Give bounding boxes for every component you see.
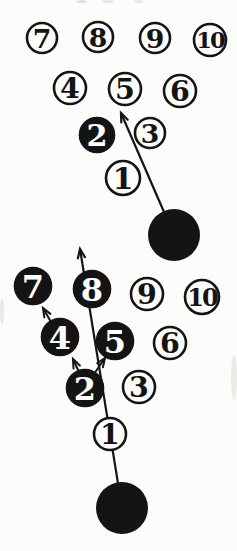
pin-3: 3	[123, 370, 155, 404]
pin-5: 5	[97, 323, 133, 361]
pin-number: 10	[187, 283, 218, 312]
pin-7: 7	[27, 23, 57, 54]
pin-9: 9	[140, 23, 170, 54]
pin-number: 9	[137, 277, 157, 311]
pin-action-figure: 7891045623178910456231	[0, 0, 237, 551]
pin-2: 2	[67, 370, 103, 408]
pin-number: 2	[74, 370, 96, 408]
bowling-ball	[96, 482, 148, 534]
pin-1: 1	[106, 161, 140, 196]
scan-artifact	[0, 298, 4, 324]
pin-number: 10	[196, 27, 225, 53]
pin-7: 7	[15, 268, 51, 306]
pin-number: 6	[170, 74, 190, 108]
pin-number: 6	[160, 326, 180, 360]
scan-artifact	[76, 0, 87, 3]
pin-10: 10	[194, 24, 226, 56]
pin-number: 5	[104, 323, 126, 361]
pin-number: 2	[86, 118, 107, 153]
scan-artifact	[231, 356, 237, 400]
pin-10: 10	[185, 280, 219, 314]
pin-9: 9	[131, 277, 163, 311]
pin-number: 9	[146, 23, 165, 54]
diagram-top: 78910456231	[27, 22, 226, 261]
pin-number: 7	[22, 268, 44, 306]
scan-artifact	[134, 0, 143, 3]
pin-number: 8	[89, 22, 108, 53]
pin-number: 8	[81, 271, 103, 309]
pin-number: 4	[49, 319, 71, 357]
bowling-ball	[148, 209, 200, 261]
pin-number: 3	[129, 370, 149, 404]
pin-3: 3	[135, 118, 165, 149]
pin-number: 7	[33, 23, 52, 54]
pin-5: 5	[109, 72, 141, 106]
pin-number: 5	[115, 72, 135, 106]
pin-8: 8	[83, 22, 113, 53]
pin-number: 1	[112, 161, 133, 196]
pin-1: 1	[94, 417, 126, 451]
pin-4: 4	[54, 71, 86, 105]
pin-number: 3	[141, 118, 160, 149]
scan-artifact	[101, 0, 114, 3]
pin-action-diagram: 7891045623178910456231	[0, 0, 237, 551]
pin-8: 8	[74, 271, 110, 309]
pin-2: 2	[80, 118, 114, 153]
pin-number: 1	[100, 417, 120, 451]
pin-6: 6	[154, 326, 186, 360]
pin-4: 4	[42, 319, 78, 357]
pin-number: 4	[60, 71, 80, 105]
pin-6: 6	[164, 74, 196, 108]
diagram-bottom: 78910456231	[15, 249, 219, 534]
